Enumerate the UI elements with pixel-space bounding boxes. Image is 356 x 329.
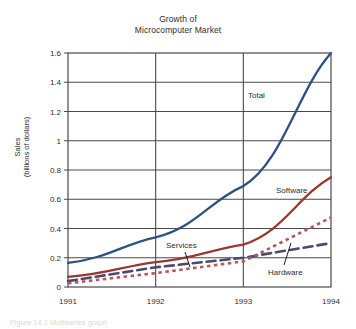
y-tick-label: 1.6: [50, 49, 62, 58]
y-tick-label: 0.8: [50, 166, 62, 175]
y-tick-label: 1.4: [50, 78, 62, 87]
figure-caption: Figure 14.1 Multiseries graph: [10, 318, 107, 327]
series-label-hardware: Hardware: [268, 268, 303, 277]
y-tick-label: 0.6: [50, 195, 62, 204]
y-tick-label: 1: [57, 137, 62, 146]
x-axis-tick-labels: 1991199219931994: [59, 297, 340, 306]
series-label-services: Services: [166, 241, 197, 250]
x-tick-label: 1992: [147, 297, 165, 306]
series-label-software: Software: [276, 186, 308, 195]
y-tick-label: 0.2: [50, 254, 62, 263]
x-tick-label: 1993: [234, 297, 252, 306]
y-axis-tick-labels: 00.20.40.60.811.21.41.6: [50, 49, 68, 292]
y-tick-label: 1.2: [50, 108, 62, 117]
figure-container: Growth of Microcomputer Market Sales (bi…: [0, 0, 356, 329]
line-chart-plot: 00.20.40.60.811.21.41.6 1991199219931994…: [0, 0, 356, 329]
x-tick-label: 1994: [322, 297, 340, 306]
y-tick-label: 0: [57, 283, 62, 292]
y-tick-label: 0.4: [50, 225, 62, 234]
series-label-total: Total: [248, 91, 265, 100]
x-tick-label: 1991: [59, 297, 77, 306]
